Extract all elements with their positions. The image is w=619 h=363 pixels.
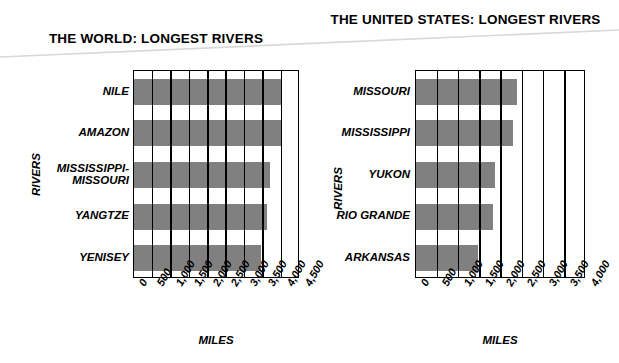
gridline [437,71,439,277]
x-tick-label: 0 [418,277,431,288]
category-label: MISSISSIPPI- MISSOURI [9,162,129,187]
chart-title: THE WORLD: LONGEST RIVERS [0,30,312,47]
category-label: MISSOURI [280,85,410,98]
gridline [189,71,191,277]
gridline [564,71,566,277]
charts-page: THE WORLD: LONGEST RIVERS RIVERS NILEAMA… [0,0,619,363]
gridline [152,71,154,277]
x-tick-label: 0 [136,277,149,288]
category-label: YENISEY [9,251,129,264]
gridline [543,71,545,277]
category-label: NILE [9,85,129,98]
bar [416,162,495,188]
gridline [225,71,227,277]
bar-row [134,120,298,146]
bar [134,162,270,188]
category-label: YUKON [280,168,410,181]
category-label: RIO GRANDE [280,209,410,222]
category-label: AMAZON [9,126,129,139]
gridline [479,71,481,277]
bar [416,204,493,230]
gridline [244,71,246,277]
x-axis-title: MILES [415,334,585,346]
gridline [522,71,524,277]
gridline [170,71,172,277]
bar-row [134,79,298,105]
bar [416,120,513,146]
plot-area [133,70,299,278]
x-axis-ticks: 05001,0001,5002,0002,5003,0003,5004,0004… [0,282,312,326]
gridline [500,71,502,277]
bar-series [134,71,298,277]
bar [134,204,267,230]
category-label: YANGTZE [9,209,129,222]
bar-row [134,162,298,188]
plot-area [415,70,585,278]
category-label: MISSISSIPPI [280,126,410,139]
category-label: ARKANSAS [280,251,410,264]
gridline [262,71,264,277]
gridline [207,71,209,277]
chart-title: THE UNITED STATES: LONGEST RIVERS [312,11,619,28]
x-axis-title: MILES [133,334,299,346]
chart-us-longest-rivers: THE UNITED STATES: LONGEST RIVERS RIVERS… [312,0,619,363]
gridline [458,71,460,277]
chart-world-longest-rivers: THE WORLD: LONGEST RIVERS RIVERS NILEAMA… [0,0,312,363]
x-axis-ticks: 05001,0001,5002,0002,5003,0003,5004,000 [312,282,619,326]
bar-row [134,204,298,230]
x-tick-label: 4,000 [588,258,612,288]
